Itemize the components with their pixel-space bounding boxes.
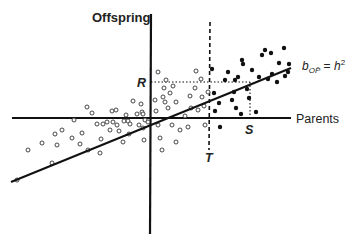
open-data-point bbox=[101, 122, 105, 126]
open-data-point bbox=[168, 91, 172, 95]
open-data-point bbox=[80, 131, 84, 135]
open-points-group bbox=[15, 69, 210, 182]
svg-text:bOP̄ = h2: bOP̄ = h2 bbox=[302, 58, 346, 75]
filled-data-point bbox=[247, 96, 251, 100]
filled-data-point bbox=[218, 125, 222, 129]
open-data-point bbox=[114, 108, 118, 112]
open-data-point bbox=[161, 95, 165, 99]
parent-offspring-regression-diagram: Offspring Parents R S T bOP̄ = h2 bbox=[0, 0, 350, 245]
open-data-point bbox=[178, 128, 182, 132]
filled-data-point bbox=[233, 78, 237, 82]
filled-data-point bbox=[250, 68, 254, 72]
open-data-point bbox=[121, 140, 125, 144]
open-data-point bbox=[156, 70, 160, 74]
open-data-point bbox=[174, 140, 178, 144]
open-data-point bbox=[141, 112, 145, 116]
open-data-point bbox=[203, 123, 207, 127]
open-data-point bbox=[158, 136, 162, 140]
filled-data-point bbox=[263, 48, 267, 52]
filled-data-point bbox=[217, 101, 221, 105]
filled-data-point bbox=[230, 98, 234, 102]
open-data-point bbox=[153, 98, 157, 102]
filled-data-point bbox=[283, 74, 287, 78]
open-data-point bbox=[142, 138, 146, 142]
open-data-point bbox=[154, 109, 158, 113]
open-data-point bbox=[124, 113, 128, 117]
x-axis-label: Parents bbox=[296, 112, 339, 126]
label-R: R bbox=[137, 76, 146, 90]
open-data-point bbox=[139, 102, 143, 106]
open-data-point bbox=[194, 69, 198, 73]
open-data-point bbox=[206, 90, 210, 94]
open-data-point bbox=[105, 120, 109, 124]
open-data-point bbox=[70, 136, 74, 140]
open-data-point bbox=[115, 123, 119, 127]
filled-data-point bbox=[210, 67, 214, 71]
filled-data-point bbox=[212, 91, 216, 95]
open-data-point bbox=[166, 106, 170, 110]
open-data-point bbox=[162, 86, 166, 90]
open-data-point bbox=[199, 77, 203, 81]
label-T: T bbox=[205, 151, 214, 165]
filled-data-point bbox=[223, 78, 227, 82]
eq-subscript: OP̄ bbox=[309, 66, 321, 75]
filled-data-point bbox=[226, 70, 230, 74]
open-data-point bbox=[137, 123, 141, 127]
filled-data-point bbox=[287, 62, 291, 66]
open-data-point bbox=[85, 105, 89, 109]
y-axis-label: Offspring bbox=[92, 10, 151, 25]
open-data-point bbox=[117, 129, 121, 133]
open-data-point bbox=[110, 109, 114, 113]
open-data-point bbox=[122, 119, 126, 123]
filled-data-point bbox=[277, 61, 281, 65]
filled-data-point bbox=[213, 109, 217, 113]
open-data-point bbox=[131, 99, 135, 103]
filled-points-group bbox=[210, 46, 291, 129]
open-data-point bbox=[135, 112, 139, 116]
filled-data-point bbox=[241, 62, 245, 66]
open-data-point bbox=[188, 94, 192, 98]
regression-equation-label: bOP̄ = h2 bbox=[302, 58, 346, 75]
open-data-point bbox=[160, 148, 164, 152]
open-data-point bbox=[170, 123, 174, 127]
open-data-point bbox=[174, 100, 178, 104]
truncation-line bbox=[209, 22, 210, 150]
open-data-point bbox=[183, 114, 187, 118]
open-data-point bbox=[193, 86, 197, 90]
label-S: S bbox=[245, 123, 254, 137]
eq-superscript: 2 bbox=[341, 58, 346, 67]
filled-data-point bbox=[275, 80, 279, 84]
open-data-point bbox=[164, 78, 168, 82]
open-data-point bbox=[200, 95, 204, 99]
open-data-point bbox=[98, 151, 102, 155]
open-data-point bbox=[95, 122, 99, 126]
filled-data-point bbox=[240, 58, 244, 62]
open-data-point bbox=[111, 120, 115, 124]
open-data-point bbox=[171, 84, 175, 88]
open-data-point bbox=[196, 108, 200, 112]
open-data-point bbox=[78, 142, 82, 146]
filled-data-point bbox=[239, 112, 243, 116]
open-data-point bbox=[26, 148, 30, 152]
open-data-point bbox=[163, 100, 167, 104]
filled-data-point bbox=[234, 106, 238, 110]
open-data-point bbox=[99, 137, 103, 141]
open-data-point bbox=[108, 128, 112, 132]
filled-data-point bbox=[257, 75, 261, 79]
filled-data-point bbox=[282, 46, 286, 50]
open-data-point bbox=[72, 118, 76, 122]
open-data-point bbox=[60, 128, 64, 132]
eq-equals: = bbox=[320, 59, 334, 73]
open-data-point bbox=[55, 143, 59, 147]
open-data-point bbox=[53, 132, 57, 136]
open-data-point bbox=[40, 141, 44, 145]
filled-data-point bbox=[260, 53, 264, 57]
open-data-point bbox=[128, 122, 132, 126]
open-data-point bbox=[146, 120, 150, 124]
filled-data-point bbox=[254, 110, 258, 114]
open-data-point bbox=[90, 111, 94, 115]
open-data-point bbox=[186, 125, 190, 129]
filled-data-point bbox=[269, 51, 273, 55]
